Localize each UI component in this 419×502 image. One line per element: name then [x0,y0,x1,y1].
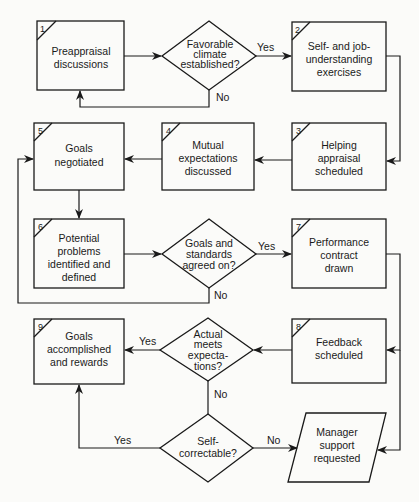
node-3-helping-appraisal: 3 Helping appraisal scheduled [292,123,386,190]
svg-text:tions?: tions? [194,360,222,372]
svg-text:scheduled: scheduled [315,349,363,361]
svg-text:4: 4 [166,126,171,136]
svg-text:expectations: expectations [179,152,238,164]
decision-self-correctable: Self- correctable? [160,414,253,482]
svg-text:3: 3 [296,126,301,136]
svg-text:drawn: drawn [325,262,354,274]
label-d4-no: No [267,434,281,446]
svg-text:discussions: discussions [54,58,108,70]
arrow-7-to-8 [386,254,400,350]
svg-text:and rewards: and rewards [50,356,108,368]
decision-goals-standards-agreed: Goals and standards agreed on? [162,219,256,288]
decision-favorable-climate: Favorable climate established? [162,21,256,90]
svg-text:correctable?: correctable? [179,447,237,459]
arrow-d1-no-to-1 [80,90,209,107]
svg-text:requested: requested [314,452,361,464]
label-d2-yes: Yes [258,240,275,252]
svg-text:problems: problems [57,245,100,257]
svg-text:Mutual: Mutual [192,139,224,151]
svg-text:2: 2 [295,25,300,35]
arrow-2-to-3 [386,56,400,161]
decision-actual-meets-expectations: Actual meets expecta- tions? [160,318,253,381]
flowchart: 1 Preappraisal discussions Favorable cli… [0,0,419,502]
svg-text:Goals: Goals [65,142,92,154]
label-d3-yes: Yes [139,335,156,347]
svg-text:understanding: understanding [306,53,373,65]
svg-text:5: 5 [38,126,43,136]
svg-text:defined: defined [62,271,97,283]
node-6-potential-problems: 6 Potential problems identified and defi… [34,219,124,288]
svg-text:negotiated: negotiated [54,156,103,168]
node-4-mutual-expectations: 4 Mutual expectations discussed [162,123,254,190]
svg-text:Potential: Potential [59,232,100,244]
node-7-performance-contract: 7 Performance contract drawn [292,219,386,288]
node-number: 1 [40,24,45,34]
svg-text:Self-: Self- [197,435,219,447]
node-1-preappraisal: 1 Preappraisal discussions [37,21,124,90]
svg-text:identified and: identified and [48,258,111,270]
svg-text:8: 8 [296,322,301,332]
node-9-goals-accomplished: 9 Goals accomplished and rewards [34,319,124,384]
svg-text:agreed on?: agreed on? [182,259,235,271]
node-8-feedback-scheduled: 8 Feedback scheduled [292,319,386,383]
svg-text:Preappraisal: Preappraisal [52,45,111,57]
svg-text:7: 7 [296,222,301,232]
svg-text:established?: established? [181,58,240,70]
svg-text:Self- and job-: Self- and job- [308,40,371,52]
svg-text:Manager: Manager [316,426,358,438]
label-d1-no: No [216,91,230,103]
svg-text:contract: contract [320,249,357,261]
node-manager-support-requested: Manager support requested [288,413,386,482]
arrow-d2-no-to-5 [18,159,209,303]
svg-text:Helping: Helping [321,139,357,151]
svg-text:appraisal: appraisal [318,152,361,164]
svg-text:6: 6 [38,222,43,232]
label-d1-yes: Yes [257,41,274,53]
svg-text:Feedback: Feedback [316,336,363,348]
svg-text:Goals: Goals [65,330,92,342]
svg-text:Performance: Performance [309,236,369,248]
svg-text:9: 9 [38,322,43,332]
label-d4-yes: Yes [114,434,131,446]
arrow-7-to-manager-support [378,350,400,450]
svg-text:support: support [319,439,354,451]
svg-text:scheduled: scheduled [315,165,363,177]
svg-text:discussed: discussed [185,165,232,177]
label-d2-no: No [214,289,228,301]
node-5-goals-negotiated: 5 Goals negotiated [34,123,124,190]
label-d3-no: No [214,388,228,400]
svg-text:accomplished: accomplished [47,343,111,355]
node-2-self-job-understanding: 2 Self- and job- understanding exercises [292,22,386,91]
svg-text:exercises: exercises [317,66,361,78]
